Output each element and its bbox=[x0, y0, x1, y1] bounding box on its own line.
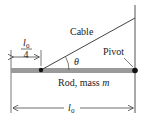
theta-label: θ bbox=[74, 56, 79, 67]
cable-label: Cable bbox=[70, 26, 94, 37]
quarter-length-label: l 0 4 bbox=[21, 37, 32, 60]
svg-text:0: 0 bbox=[71, 107, 75, 115]
rod bbox=[11, 68, 135, 73]
svg-text:4: 4 bbox=[24, 49, 29, 60]
pivot-leader-line bbox=[124, 58, 133, 67]
rod-cable-diagram: l 0 4 Cable θ Pivot Rod, mass m l 0 bbox=[0, 0, 146, 122]
pivot-point bbox=[132, 68, 138, 74]
full-length-label: l 0 bbox=[68, 102, 75, 115]
cable-attachment-point bbox=[39, 68, 43, 72]
rod-label: Rod, mass m bbox=[58, 77, 109, 88]
theta-arc bbox=[66, 57, 70, 71]
pivot-label: Pivot bbox=[103, 46, 124, 57]
